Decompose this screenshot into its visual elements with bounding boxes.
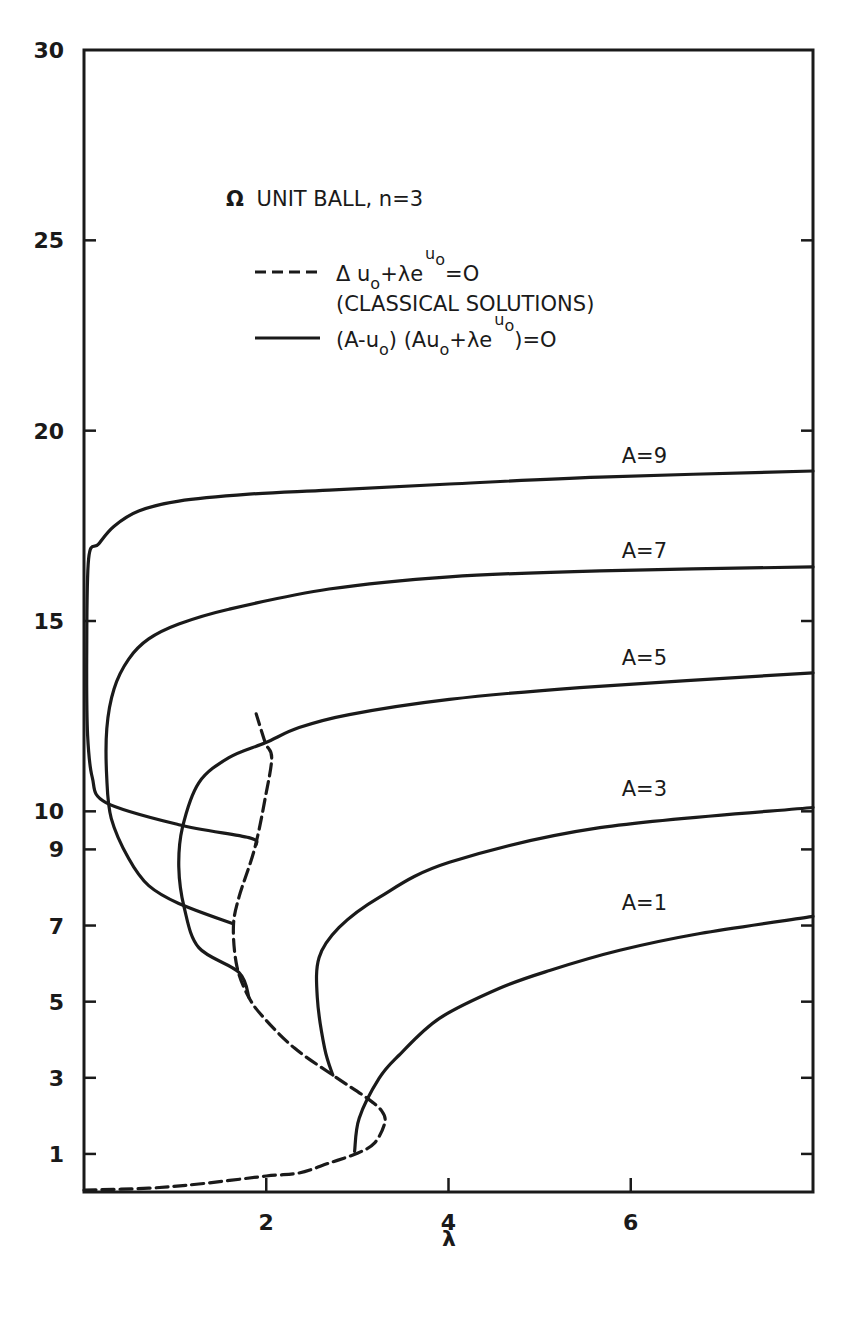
y-tick-label: 3 <box>49 1066 64 1091</box>
legend: Ω UNIT BALL, n=3 Δ uo+λeuo=O (CLASSICAL … <box>226 187 594 359</box>
legend-title: Ω UNIT BALL, n=3 <box>226 187 423 211</box>
x-tick-label: 6 <box>623 1210 638 1235</box>
y-tick-label: 5 <box>49 990 64 1015</box>
y-tick-label: 7 <box>49 914 64 939</box>
y-tick-label: 20 <box>33 419 64 444</box>
plot-frame <box>84 50 813 1192</box>
y-tick-label: 15 <box>33 609 64 634</box>
y-axis-ticks: 135791015202530 <box>33 38 813 1167</box>
y-tick-label: 9 <box>49 837 64 862</box>
curve-label-a-3: A=3 <box>622 777 667 801</box>
y-tick-label: 25 <box>33 228 64 253</box>
legend-dashed-note: (CLASSICAL SOLUTIONS) <box>336 292 594 316</box>
curve-classical-solutions <box>84 714 385 1190</box>
curve-labels: A=9A=7A=5A=3A=1 <box>622 444 667 915</box>
x-tick-label: 2 <box>259 1210 274 1235</box>
curve-label-a-7: A=7 <box>622 539 667 563</box>
bifurcation-chart: 135791015202530 246 A=9A=7A=5A=3A=1 λ Ω … <box>0 0 850 1325</box>
curve-a-1 <box>355 916 813 1151</box>
curve-a-5 <box>179 673 813 998</box>
y-tick-label: 1 <box>49 1142 64 1167</box>
legend-dashed-equation: Δ uo+λeuo=O <box>336 244 479 293</box>
y-tick-label: 30 <box>33 38 64 63</box>
curve-label-a-9: A=9 <box>622 444 667 468</box>
legend-solid-equation: (A-uo) (Auo+λeuo)=O <box>336 310 557 359</box>
x-axis-label: λ <box>442 1226 456 1251</box>
curve-a-7 <box>106 567 813 924</box>
legend-title-text: UNIT BALL, n=3 <box>257 187 424 211</box>
omega-symbol: Ω <box>226 187 244 211</box>
curves <box>84 471 813 1190</box>
y-tick-label: 10 <box>33 799 64 824</box>
curve-a-3 <box>316 808 813 1076</box>
curve-label-a-1: A=1 <box>622 891 667 915</box>
curve-label-a-5: A=5 <box>622 646 667 670</box>
